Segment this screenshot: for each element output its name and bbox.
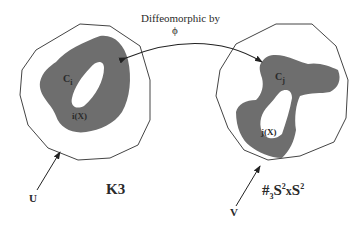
cj-label-sub: j	[282, 76, 285, 85]
jx-label: j(X)	[261, 128, 277, 137]
sphere-1: S	[274, 182, 282, 198]
sphere-2-dim: 2	[300, 182, 304, 191]
phi-symbol: ϕ	[172, 25, 178, 36]
diffeomorphism-caption: Diffeomorphic by	[141, 13, 220, 24]
cj-label: Cj	[275, 72, 285, 85]
v-label: V	[230, 207, 238, 218]
ci-label-sub: i	[70, 78, 72, 87]
ix-label: i(X)	[72, 112, 87, 121]
sphere-2: S	[292, 182, 300, 198]
diagram-canvas	[0, 0, 360, 228]
ci-label: Ci	[63, 74, 72, 87]
region-cj	[236, 55, 340, 158]
k3-label: K3	[106, 182, 125, 197]
connected-sum-label: #3S2xS2	[262, 183, 304, 201]
u-label: U	[29, 193, 37, 204]
diffeomorphism-arrow	[126, 44, 262, 63]
v-pointer-arrow	[236, 166, 260, 206]
u-pointer-arrow	[37, 152, 60, 190]
connected-sum-hash: #	[262, 182, 270, 198]
